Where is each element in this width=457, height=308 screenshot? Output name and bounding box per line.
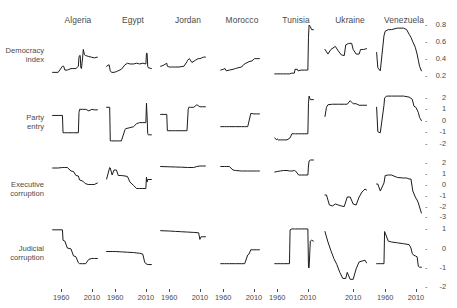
row-label-line2: corruption — [10, 189, 44, 198]
tick-value: -1 — [429, 191, 446, 200]
ytick-row3-0: -1 — [425, 224, 446, 233]
panel-party-entry-morocco — [214, 92, 260, 145]
series-line — [107, 53, 152, 72]
panel-democracy-index-ukraine — [322, 22, 368, 80]
panel-executive-corruption-morocco — [214, 157, 260, 215]
series-line — [275, 25, 314, 74]
panel-party-entry-tunisia — [268, 92, 314, 145]
panel-executive-corruption-venezuela — [376, 157, 422, 215]
x-tick-mark — [169, 289, 170, 292]
row-label-line2: index — [26, 55, 44, 64]
panel-party-entry-ukraine — [322, 92, 368, 145]
ytick-row3-3: --2 — [425, 282, 446, 291]
x-tick-mark — [385, 289, 386, 292]
x-tick-mark — [115, 289, 116, 292]
x-tick-mark — [200, 289, 201, 292]
panel-party-entry-algeria — [52, 92, 98, 145]
ytick-row2-5: --3 — [425, 212, 446, 221]
tick-value: -2 — [429, 282, 446, 291]
ytick-row2-3: --1 — [425, 191, 446, 200]
x-tick-mark — [254, 289, 255, 292]
series-line — [107, 252, 152, 265]
panel-judicial-corruption-morocco — [214, 222, 260, 288]
panel-judicial-corruption-venezuela — [376, 222, 422, 288]
series-line — [107, 168, 152, 189]
series-line — [377, 232, 422, 268]
ytick-row3-1: -0 — [425, 244, 446, 253]
row-label-line1: Judicial — [19, 244, 44, 253]
tick-value: 0 — [429, 116, 446, 125]
ytick-row1-3: --1 — [425, 127, 446, 136]
panel-judicial-corruption-ukraine — [322, 222, 368, 288]
series-line — [377, 96, 422, 133]
series-line — [53, 230, 98, 264]
panel-judicial-corruption-egypt — [106, 222, 152, 288]
tick-value: 1 — [429, 224, 446, 233]
tick-value: 0 — [429, 244, 446, 253]
x-tick-label-ukraine-2010: 2010 — [339, 293, 367, 302]
row-label-party-entry: Party entry — [0, 113, 44, 132]
tick-value: 2 — [429, 158, 446, 167]
tick-value: 0.8 — [429, 20, 446, 29]
x-tick-mark — [416, 289, 417, 292]
panel-executive-corruption-tunisia — [268, 157, 314, 215]
panel-democracy-index-morocco — [214, 22, 260, 80]
panel-party-entry-egypt — [106, 92, 152, 145]
tick-value: 1 — [429, 169, 446, 178]
ytick-row0-2: -0.4 — [425, 54, 446, 63]
panel-democracy-index-venezuela — [376, 22, 422, 80]
row-label-judicial-corruption: Judicial corruption — [0, 244, 44, 263]
tick-value: 0.2 — [429, 71, 446, 80]
x-tick-label-egypt-1960: 1960 — [101, 293, 129, 302]
series-line — [325, 43, 367, 55]
series-line — [377, 28, 422, 71]
ytick-row2-0: -2 — [425, 158, 446, 167]
x-tick-label-morocco-1960: 1960 — [209, 293, 237, 302]
series-line — [221, 250, 260, 264]
x-tick-mark — [146, 289, 147, 292]
panel-judicial-corruption-algeria — [52, 222, 98, 288]
series-line — [161, 105, 206, 131]
row-label-executive-corruption: Executive corruption — [0, 180, 44, 199]
series-line — [53, 109, 98, 132]
panel-democracy-index-algeria — [52, 22, 98, 80]
panel-executive-corruption-algeria — [52, 157, 98, 215]
series-line — [325, 189, 367, 207]
row-label-democracy-index: Democracy index — [0, 46, 44, 65]
x-tick-mark — [92, 289, 93, 292]
series-line — [221, 59, 260, 71]
tick-value: -2 — [429, 139, 446, 148]
panel-executive-corruption-egypt — [106, 157, 152, 215]
x-tick-label-tunisia-1960: 1960 — [263, 293, 291, 302]
tick-value: 0.6 — [429, 37, 446, 46]
row-label-line1: Party — [26, 113, 44, 122]
tick-value: 2 — [429, 93, 446, 102]
ytick-row2-4: --2 — [425, 202, 446, 211]
x-tick-label-venezuela-1960: 1960 — [371, 293, 399, 302]
ytick-row1-4: --2 — [425, 139, 446, 148]
series-line — [325, 232, 367, 280]
tick-value: -1 — [429, 263, 446, 272]
x-tick-mark — [308, 289, 309, 292]
panel-executive-corruption-jordan — [160, 157, 206, 215]
x-tick-label-tunisia-2010: 2010 — [294, 293, 322, 302]
x-tick-mark — [223, 289, 224, 292]
x-tick-label-venezuela-2010: 2010 — [402, 293, 430, 302]
tick-value: 1 — [429, 104, 446, 113]
row-label-line2: entry — [27, 122, 44, 131]
tick-value: -1 — [429, 127, 446, 136]
ytick-row1-2: -0 — [425, 116, 446, 125]
x-tick-mark — [277, 289, 278, 292]
ytick-row2-1: -1 — [425, 169, 446, 178]
panel-executive-corruption-ukraine — [322, 157, 368, 215]
ytick-row3-2: --1 — [425, 263, 446, 272]
series-line — [161, 166, 206, 168]
panel-party-entry-jordan — [160, 92, 206, 145]
panel-democracy-index-jordan — [160, 22, 206, 80]
series-line — [161, 231, 206, 240]
series-line — [325, 101, 367, 117]
series-line — [107, 103, 152, 141]
row-label-line1: Democracy — [6, 46, 44, 55]
panel-party-entry-venezuela — [376, 92, 422, 145]
ytick-row1-0: -2 — [425, 93, 446, 102]
